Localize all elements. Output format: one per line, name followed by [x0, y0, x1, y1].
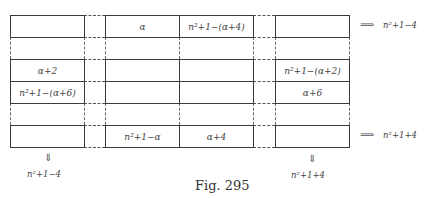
cell-r2-mid-left [105, 59, 180, 82]
dashed-connector [84, 37, 105, 38]
dashed-connector [84, 103, 105, 104]
dashed-connector [105, 37, 106, 59]
dashed-connector [253, 59, 275, 60]
dashed-connector [84, 81, 105, 82]
dashed-connector [253, 103, 254, 125]
figure-caption: Fig. 295 [195, 178, 250, 193]
col-sum-left: n²+1−4 [27, 169, 61, 179]
magic-square-diagram: α n²+1−(α+4) α+2 n²+1−(α+2) n²+1−(α+6) α… [0, 0, 433, 198]
dashed-connector [10, 37, 11, 59]
dashed-connector [84, 37, 85, 59]
dashed-connector [179, 103, 180, 125]
dashed-connector [253, 15, 275, 16]
dashed-connector [253, 147, 275, 148]
dashed-connector [253, 81, 275, 82]
dashed-connector [253, 37, 254, 59]
implies-arrow-icon: ⟹ [360, 129, 374, 140]
dashed-connector [253, 125, 275, 126]
dashed-connector [84, 125, 105, 126]
dashed-connector [253, 103, 275, 104]
cell-r3-left: n²+1−(α+6) [10, 81, 85, 104]
cell-r4-right [275, 125, 350, 148]
col-sum-right: n²+1+4 [291, 170, 325, 180]
cell-r3-mid-left [105, 81, 180, 104]
dashed-connector [105, 103, 106, 125]
cell-r2-mid-right [179, 59, 254, 82]
row-sum-top: n²+1−4 [383, 20, 417, 30]
cell-r1-mid-left: α [105, 15, 180, 38]
cell-r1-right [275, 15, 350, 38]
cell-r2-left: α+2 [10, 59, 85, 82]
dashed-connector [275, 37, 276, 59]
dashed-connector [253, 37, 275, 38]
cell-r2-right: n²+1−(α+2) [275, 59, 350, 82]
implies-arrow-icon: ⟹ [360, 19, 374, 30]
dashed-connector [349, 37, 350, 59]
dashed-connector [84, 59, 105, 60]
dashed-connector [349, 103, 350, 125]
down-arrow-icon: ⇓ [308, 153, 316, 164]
dashed-connector [84, 15, 105, 16]
cell-r1-mid-right: n²+1−(α+4) [179, 15, 254, 38]
dashed-connector [179, 37, 180, 59]
cell-r4-mid-left: n²+1−α [105, 125, 180, 148]
dashed-connector [275, 103, 276, 125]
cell-r3-mid-right [179, 81, 254, 104]
row-sum-bottom: n²+1+4 [383, 130, 417, 140]
dashed-connector [84, 103, 85, 125]
down-arrow-icon: ⇓ [44, 152, 52, 163]
dashed-connector [10, 103, 11, 125]
cell-r4-left [10, 125, 85, 148]
cell-r3-right: α+6 [275, 81, 350, 104]
cell-r1-left [10, 15, 85, 38]
cell-r4-mid-right: α+4 [179, 125, 254, 148]
dashed-connector [84, 147, 105, 148]
